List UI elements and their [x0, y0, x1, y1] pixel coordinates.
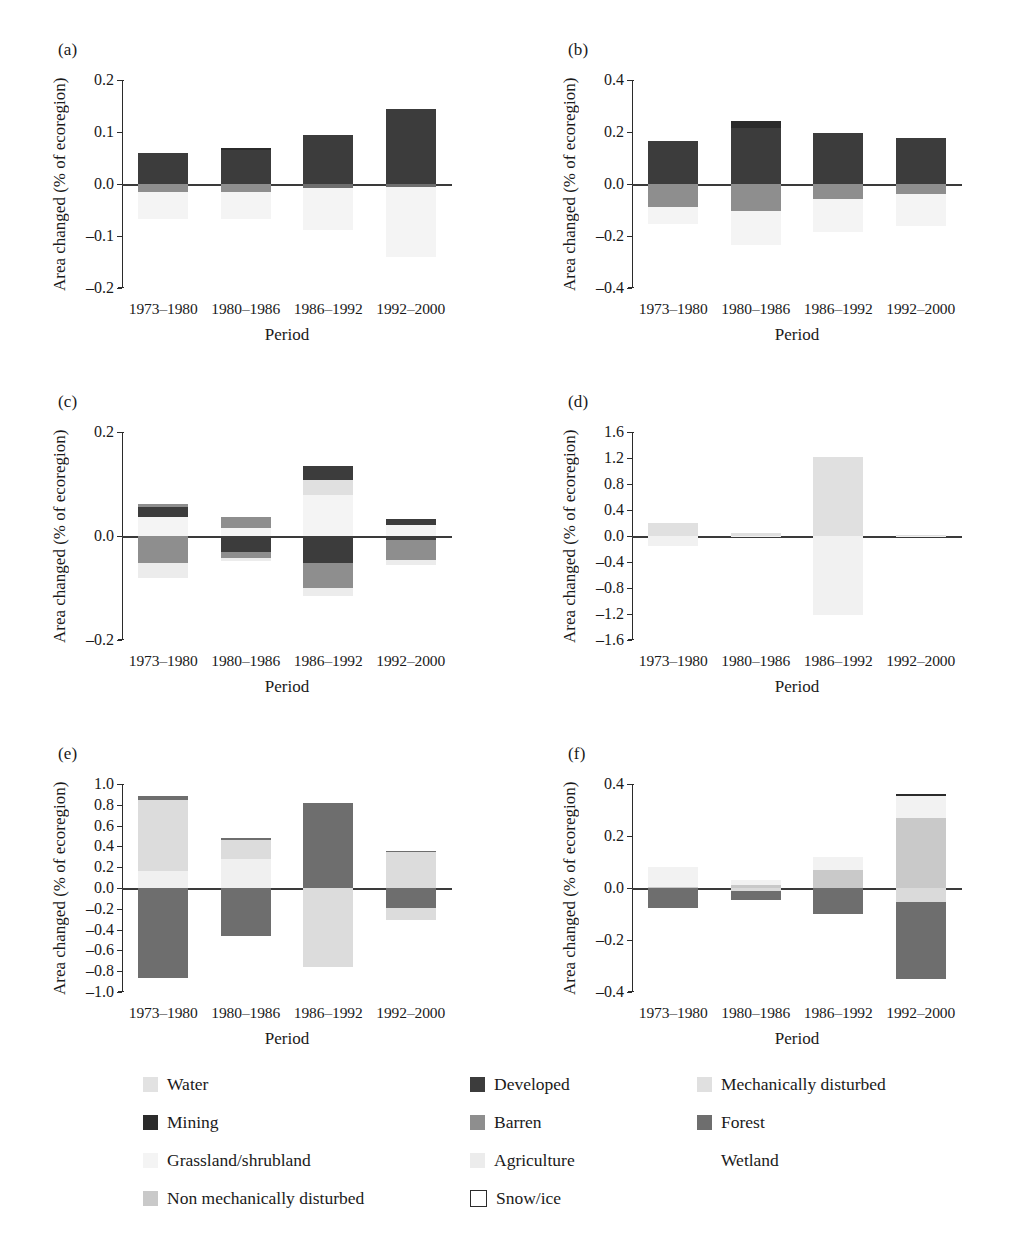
bar-segment: [648, 536, 698, 546]
x-tick-label: 1992–2000: [886, 1004, 955, 1022]
y-tick-label: 0.2: [560, 123, 624, 141]
legend-item: Mechanically disturbed: [697, 1076, 886, 1094]
bar-segment: [221, 148, 271, 151]
y-tick-label: –0.1: [50, 227, 114, 245]
bar-a-1: [138, 22, 188, 288]
bar-segment: [221, 192, 271, 219]
x-tick-label: 1980–1986: [721, 652, 790, 670]
legend-item: Grassland/shrubland: [143, 1152, 311, 1170]
panel-label-d: (d): [568, 392, 588, 412]
bar-segment: [386, 852, 436, 888]
y-tick-label: 0.1: [50, 123, 114, 141]
y-tick-mark: [627, 588, 632, 589]
y-tick-mark: [117, 846, 122, 847]
x-tick-label: 1973–1980: [129, 652, 198, 670]
bar-a-3: [303, 22, 353, 288]
bar-segment: [221, 888, 271, 936]
y-tick-mark: [117, 640, 122, 641]
panel-label-f: (f): [568, 744, 586, 764]
y-tick-label: –0.2: [560, 227, 624, 245]
x-tick-label: 1980–1986: [721, 300, 790, 318]
x-tick-labels: 1973–19801980–19861986–19921992–2000: [520, 652, 1020, 676]
x-tick-label: 1986–1992: [804, 1004, 873, 1022]
legend-swatch-icon: [470, 1153, 485, 1168]
bar-f-3: [813, 726, 863, 992]
bar-d-3: [813, 374, 863, 640]
y-tick-label: 0.8: [560, 475, 624, 493]
y-tick-mark: [117, 80, 122, 81]
bar-segment: [138, 504, 188, 507]
y-tick-mark: [627, 484, 632, 485]
bar-segment: [813, 857, 863, 870]
bar-segment: [303, 480, 353, 496]
bar-b-3: [813, 22, 863, 288]
bar-segment: [303, 536, 353, 563]
bar-segment: [896, 818, 946, 888]
bar-segment: [731, 128, 781, 184]
bar-segment: [648, 888, 698, 908]
bar-segment: [303, 888, 353, 967]
bar-segment: [138, 517, 188, 536]
y-tick-label: 0.4: [560, 775, 624, 793]
bar-b-4: [896, 22, 946, 288]
bar-c-4: [386, 374, 436, 640]
legend-item: Snow/ice: [470, 1190, 561, 1208]
x-tick-label: 1986–1992: [804, 300, 873, 318]
legend-swatch-icon: [143, 1115, 158, 1130]
x-tick-label: 1973–1980: [129, 1004, 198, 1022]
bar-segment: [221, 558, 271, 561]
x-axis-label: Period: [122, 325, 452, 345]
legend-label: Non mechanically disturbed: [167, 1190, 364, 1208]
y-tick-label: 0.8: [50, 796, 114, 814]
x-tick-label: 1973–1980: [639, 652, 708, 670]
bar-c-3: [303, 374, 353, 640]
x-tick-label: 1992–2000: [886, 300, 955, 318]
bar-segment: [813, 888, 863, 914]
bar-segment: [731, 211, 781, 246]
y-tick-mark: [627, 458, 632, 459]
y-tick-label: –0.4: [50, 921, 114, 939]
y-tick-label: 1.6: [560, 423, 624, 441]
panel-label-c: (c): [58, 392, 77, 412]
bar-segment: [221, 528, 271, 536]
legend-item: Agriculture: [470, 1152, 575, 1170]
y-tick-mark: [117, 132, 122, 133]
bar-e-3: [303, 726, 353, 992]
bar-segment: [386, 109, 436, 184]
bar-d-4: [896, 374, 946, 640]
bar-c-1: [138, 374, 188, 640]
x-tick-label: 1973–1980: [639, 1004, 708, 1022]
bar-segment: [648, 523, 698, 536]
y-tick-label: –0.2: [50, 900, 114, 918]
y-tick-label: 0.0: [560, 175, 624, 193]
bar-e-2: [221, 726, 271, 992]
y-tick-label: –1.2: [560, 605, 624, 623]
y-tick-label: 0.2: [50, 858, 114, 876]
y-tick-label: 0.4: [560, 501, 624, 519]
x-axis-label: Period: [632, 677, 962, 697]
bar-segment: [303, 803, 353, 888]
y-tick-mark: [627, 836, 632, 837]
legend-label: Forest: [721, 1114, 765, 1132]
bar-segment: [731, 891, 781, 900]
bar-b-1: [648, 22, 698, 288]
y-tick-mark: [627, 940, 632, 941]
bar-d-2: [731, 374, 781, 640]
bar-segment: [138, 153, 188, 184]
y-tick-label: –0.6: [50, 941, 114, 959]
x-tick-label: 1973–1980: [639, 300, 708, 318]
bar-segment: [138, 507, 188, 517]
bar-segment: [138, 192, 188, 219]
legend-swatch-icon: [143, 1077, 158, 1092]
y-tick-label: –1.0: [50, 983, 114, 1001]
bar-segment: [896, 138, 946, 184]
legend-swatch-icon: [697, 1153, 712, 1168]
y-tick-label: 0.0: [50, 879, 114, 897]
bar-segment: [386, 888, 436, 908]
y-tick-label: 0.6: [50, 817, 114, 835]
x-tick-label: 1992–2000: [886, 652, 955, 670]
x-axis-label: Period: [632, 325, 962, 345]
y-tick-mark: [627, 562, 632, 563]
panel-b: (b)Area changed (% of ecoregion)0.40.20.…: [520, 22, 1020, 374]
bar-segment: [221, 184, 271, 192]
